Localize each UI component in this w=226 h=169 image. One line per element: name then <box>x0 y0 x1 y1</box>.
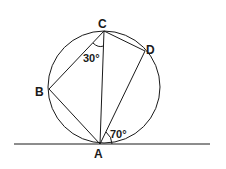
chord-CD <box>104 31 145 51</box>
angle-label-30: 30° <box>83 52 100 64</box>
label-D: D <box>146 43 155 57</box>
label-A: A <box>94 147 103 161</box>
chord-CA <box>100 31 104 144</box>
label-C: C <box>98 17 107 31</box>
angle-arc-C <box>93 43 104 47</box>
circle <box>48 31 160 143</box>
label-B: B <box>35 85 44 99</box>
angle-label-70: 70° <box>110 128 127 140</box>
geometry-diagram: C D B A 30° 70° <box>0 0 226 169</box>
